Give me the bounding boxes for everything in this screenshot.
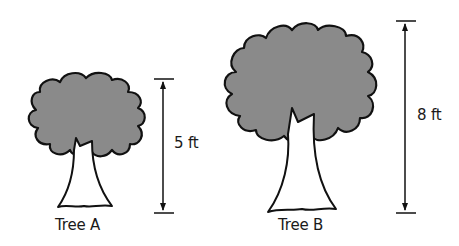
- tree-a-height-label: 5 ft: [174, 134, 198, 152]
- tree-b-height-arrow: [396, 21, 416, 213]
- tree-b-name-label: Tree B: [278, 216, 323, 234]
- tree-b-height-label: 8 ft: [417, 106, 441, 124]
- tree-b: [225, 23, 377, 212]
- tree-diagram: [0, 0, 459, 246]
- tree-a: [29, 73, 145, 207]
- tree-a-name-label: Tree A: [55, 216, 100, 234]
- tree-a-height-arrow: [154, 79, 174, 213]
